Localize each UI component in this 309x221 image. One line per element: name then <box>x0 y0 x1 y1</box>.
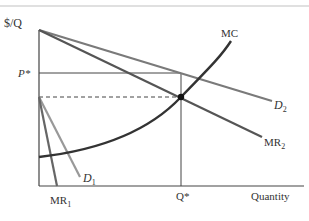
x-axis-label: Quantity <box>251 190 290 202</box>
mc-label: MC <box>221 27 238 39</box>
d2-curve <box>39 30 272 101</box>
quantity-marker-label: Q* <box>176 190 189 202</box>
mr1-curve <box>39 97 57 186</box>
mr1-label: MR1 <box>50 194 71 209</box>
mr2-label: MR2 <box>264 136 285 151</box>
y-axis-label: $/Q <box>4 16 22 30</box>
d2-label: D2 <box>273 98 287 114</box>
equilibrium-point <box>178 94 184 100</box>
monopoly-diagram: $/Q P* MC D2 MR2 D1 MR1 Q* Quantity <box>0 0 309 221</box>
price-label: P* <box>17 67 31 79</box>
d1-label: D1 <box>82 171 96 187</box>
d1-curve <box>39 97 80 177</box>
